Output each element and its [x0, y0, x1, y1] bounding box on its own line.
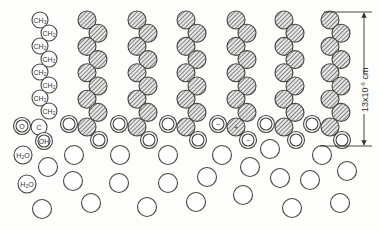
- water-molecule: [138, 198, 157, 217]
- water-molecule: [241, 158, 260, 177]
- head-oxygen-left-inner: [306, 118, 318, 130]
- head-oxygen-lower: [190, 132, 207, 149]
- head-oxygen-left: [304, 116, 321, 133]
- negative-charge-label: −: [216, 121, 220, 128]
- water-molecule: [301, 171, 320, 190]
- fatty-acid-chain: [258, 11, 305, 149]
- head-oxygen-lower: [91, 132, 108, 149]
- water-molecule: [64, 172, 83, 191]
- atom-label-c: C: [36, 124, 41, 131]
- head-oxygen-left: [61, 116, 78, 133]
- head-oxygen-lower-inner: [93, 134, 105, 146]
- head-oxygen-left-inner: [260, 118, 272, 130]
- head-oxygen-lower-inner: [143, 134, 155, 146]
- atom-label-oh: OH: [39, 138, 50, 145]
- dimension-label: 13x10-6 cm: [360, 68, 370, 112]
- head-oxygen-lower-inner: [336, 134, 348, 146]
- water-molecule: [159, 146, 178, 165]
- atom-label-o: O: [19, 123, 25, 130]
- water-molecule: [39, 158, 58, 177]
- head-oxygen-left-inner: [162, 118, 174, 130]
- water-molecule: [313, 146, 332, 165]
- molecular-monolayer-figure: CH3CH2CH2CH2CH2CH2CH2CH2OCOH +−− H2OH2O …: [0, 0, 379, 230]
- hatched-fatty-acid-chains: +−−: [61, 11, 351, 149]
- water-molecule: [82, 194, 101, 213]
- water-molecule: [33, 200, 52, 219]
- head-oxygen-lower: [141, 132, 158, 149]
- water-molecule: [331, 194, 350, 213]
- head-oxygen-lower: [288, 132, 305, 149]
- head-oxygen-lower-inner: [192, 134, 204, 146]
- head-oxygen-lower-inner: [290, 134, 302, 146]
- water-molecule: [271, 169, 290, 188]
- water-molecule: [111, 146, 130, 165]
- head-oxygen-left: [160, 116, 177, 133]
- labeled-fatty-acid-molecule: CH3CH2CH2CH2CH2CH2CH2CH2OCOH: [14, 12, 58, 150]
- head-oxygen-left: [258, 116, 275, 133]
- negative-charge-label: −: [246, 137, 250, 144]
- water-layer: H2OH2O: [14, 140, 357, 219]
- water-molecule: [187, 193, 206, 212]
- water-molecule: [338, 162, 357, 181]
- water-molecule: [213, 146, 232, 165]
- fatty-acid-chain: [304, 11, 351, 149]
- water-molecule: [283, 199, 302, 218]
- fatty-acid-chain: [111, 11, 158, 149]
- monolayer-diagram: CH3CH2CH2CH2CH2CH2CH2CH2OCOH +−− H2OH2O …: [0, 0, 379, 230]
- head-oxygen-left-inner: [63, 118, 75, 130]
- water-molecule: [110, 174, 129, 193]
- water-molecule: [65, 146, 84, 165]
- water-molecule: [261, 140, 280, 159]
- water-molecule: [234, 186, 253, 205]
- water-molecule: [198, 168, 217, 187]
- fatty-acid-chain: [160, 11, 207, 149]
- positive-charge-label: +: [234, 124, 238, 131]
- head-oxygen-left-inner: [113, 118, 125, 130]
- water-molecule: [159, 174, 178, 193]
- head-oxygen-left: [111, 116, 128, 133]
- fatty-acid-chain: [61, 11, 108, 149]
- fatty-acid-chain: +−−: [210, 11, 257, 149]
